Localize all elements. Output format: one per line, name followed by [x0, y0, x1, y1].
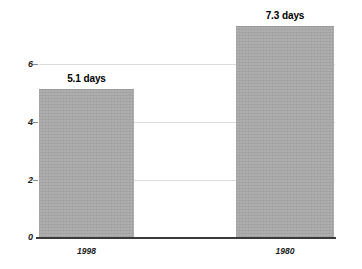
- y-tick-label-0: 0: [7, 233, 33, 242]
- bar-1998[interactable]: [39, 89, 134, 238]
- x-axis-baseline: [36, 237, 336, 239]
- category-label-1998: 1998: [39, 246, 134, 256]
- bar-chart: 6 4 2 0 5.1 days 7.3 days 1998 1980: [0, 0, 362, 269]
- y-tick-dash-4: [33, 122, 38, 123]
- y-tick-label-6: 6: [7, 60, 33, 69]
- y-tick-dash-6: [33, 64, 38, 65]
- y-axis: 6 4 2 0: [0, 18, 33, 238]
- value-label-1998: 5.1 days: [39, 73, 134, 84]
- bars-layer: [39, 18, 335, 238]
- bar-1980[interactable]: [236, 26, 334, 238]
- y-tick-label-2: 2: [7, 176, 33, 185]
- y-tick-label-4: 4: [7, 118, 33, 127]
- category-label-1980: 1980: [236, 246, 334, 256]
- y-tick-dash-2: [33, 180, 38, 181]
- value-label-1980: 7.3 days: [236, 10, 334, 21]
